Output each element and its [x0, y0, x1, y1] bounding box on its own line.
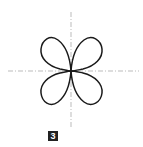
diagram-canvas — [0, 0, 143, 147]
petal-top-left — [41, 38, 71, 71]
petal-bottom-right — [71, 71, 102, 104]
petal-top-right — [71, 38, 102, 71]
figure-label: 3 — [48, 131, 58, 141]
petal-bottom-left — [41, 71, 71, 104]
